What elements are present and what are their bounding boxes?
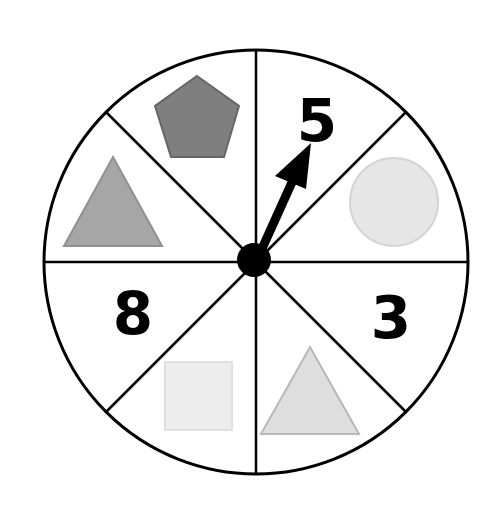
label-eight: 8 (113, 280, 153, 348)
spinner-hub (237, 243, 271, 277)
label-five: 5 (297, 87, 337, 155)
spinner: 5 3 8 (0, 0, 501, 509)
label-three: 3 (371, 284, 411, 352)
square-shape (165, 362, 232, 430)
circle-shape (350, 158, 438, 246)
